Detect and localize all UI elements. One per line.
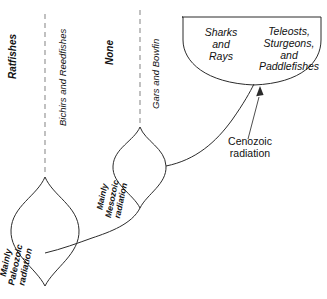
cenozoic-leader-line bbox=[248, 97, 259, 139]
connector-mesozoic-to-paleozoic bbox=[45, 208, 140, 253]
label-teleosts-sturgeons-paddlefishes: Teleosts, Sturgeons, and Paddlefishes bbox=[251, 26, 327, 73]
label-gars-bowfin: Gars and Bowfin bbox=[151, 39, 162, 109]
label-sharks-and-rays: Sharks and Rays bbox=[190, 27, 252, 62]
label-cenozoic-radiation: Cenozoic radiation bbox=[214, 136, 286, 160]
cenozoic-arrow-icon bbox=[256, 86, 263, 96]
label-bichirs-reedfishes: Bichirs and Reedfishes bbox=[58, 29, 69, 126]
spindle-diagram-canvas: Ratfishes Bichirs and Reedfishes None Ga… bbox=[0, 0, 327, 299]
label-ratfishes: Ratfishes bbox=[7, 34, 18, 79]
label-none: None bbox=[104, 40, 115, 65]
